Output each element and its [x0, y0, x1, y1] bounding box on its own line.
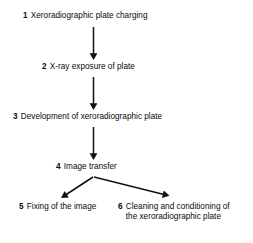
step-5-number: 5: [19, 202, 24, 211]
arrow-4-to-5: [64, 177, 93, 196]
arrow-4-to-6: [94, 177, 166, 195]
step-6-label: Cleaning and conditioning of the xerorad…: [126, 202, 234, 222]
step-4-label: Image transfer: [64, 162, 117, 171]
step-5-label: Fixing of the image: [27, 202, 97, 211]
flowchart-step-4: 4Image transfer: [56, 162, 117, 172]
flowchart-diagram: 1Xeroradiographic plate charging 2X-ray …: [0, 0, 253, 243]
step-6-number: 6: [118, 202, 123, 212]
flowchart-step-1: 1Xeroradiographic plate charging: [23, 11, 147, 21]
step-1-number: 1: [23, 11, 28, 20]
step-2-label: X-ray exposure of plate: [50, 62, 135, 71]
flowchart-step-3: 3Development of xeroradiographic plate: [13, 112, 162, 122]
step-1-label: Xeroradiographic plate charging: [31, 11, 148, 20]
step-3-label: Development of xeroradiographic plate: [21, 112, 162, 121]
step-3-number: 3: [13, 112, 18, 121]
step-2-number: 2: [42, 62, 47, 71]
flowchart-step-6: 6Cleaning and conditioning of the xerora…: [118, 202, 234, 222]
step-4-number: 4: [56, 162, 61, 171]
flowchart-step-5: 5Fixing of the image: [19, 202, 96, 212]
flowchart-step-2: 2X-ray exposure of plate: [42, 62, 135, 72]
